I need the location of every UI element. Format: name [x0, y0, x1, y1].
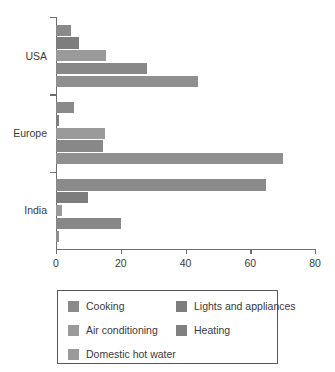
x-tick-0 — [56, 249, 57, 254]
bar-europe-domestic-hot-water — [56, 153, 283, 164]
x-tick-label-40: 40 — [180, 257, 192, 269]
legend-item-heating[interactable]: Heating — [176, 325, 230, 336]
x-tick-20 — [121, 249, 122, 254]
y-axis-label-usa: USA — [25, 50, 47, 62]
chart-figure: 020406080 USAEuropeIndia CookingAir cond… — [0, 0, 335, 372]
legend-item-lights-and-appliances[interactable]: Lights and appliances — [176, 301, 296, 312]
legend-item-air-conditioning[interactable]: Air conditioning — [68, 325, 158, 336]
bar-usa-air-conditioning — [56, 50, 106, 61]
legend-swatch-icon — [68, 301, 79, 312]
plot-area: 020406080 USAEuropeIndia — [0, 0, 335, 286]
legend-item-cooking[interactable]: Cooking — [68, 301, 125, 312]
y-group-tick-usa — [50, 17, 56, 18]
x-tick-label-60: 60 — [244, 257, 256, 269]
bar-europe-cooking — [56, 102, 74, 113]
bar-usa-heating — [56, 63, 147, 74]
y-group-tick-india — [50, 172, 56, 173]
y-group-tick-europe — [50, 94, 56, 95]
y-axis-label-india: India — [24, 204, 47, 216]
y-axis-label-europe: Europe — [13, 127, 47, 139]
legend-swatch-icon — [68, 349, 79, 360]
bar-india-lights-and-appliances — [56, 192, 88, 203]
legend-label: Heating — [194, 325, 230, 336]
chart-legend: CookingAir conditioningDomestic hot wate… — [57, 290, 278, 364]
bar-india-air-conditioning — [56, 205, 62, 216]
bar-usa-domestic-hot-water — [56, 76, 198, 87]
x-tick-60 — [250, 249, 251, 254]
bar-india-domestic-hot-water — [56, 231, 59, 242]
x-tick-label-20: 20 — [115, 257, 127, 269]
legend-swatch-icon — [68, 325, 79, 336]
legend-label: Air conditioning — [86, 325, 158, 336]
legend-label: Domestic hot water — [86, 349, 176, 360]
bar-usa-lights-and-appliances — [56, 37, 79, 48]
x-tick-80 — [315, 249, 316, 254]
x-tick-label-0: 0 — [53, 257, 59, 269]
bar-india-heating — [56, 218, 121, 229]
bar-india-cooking — [56, 179, 266, 190]
legend-label: Lights and appliances — [194, 301, 296, 312]
bar-europe-heating — [56, 140, 103, 151]
legend-item-domestic-hot-water[interactable]: Domestic hot water — [68, 349, 176, 360]
x-tick-label-80: 80 — [309, 257, 321, 269]
bar-europe-lights-and-appliances — [56, 115, 59, 126]
legend-label: Cooking — [86, 301, 125, 312]
legend-swatch-icon — [176, 325, 187, 336]
x-tick-40 — [186, 249, 187, 254]
bar-europe-air-conditioning — [56, 128, 105, 139]
bar-usa-cooking — [56, 25, 71, 36]
legend-swatch-icon — [176, 301, 187, 312]
